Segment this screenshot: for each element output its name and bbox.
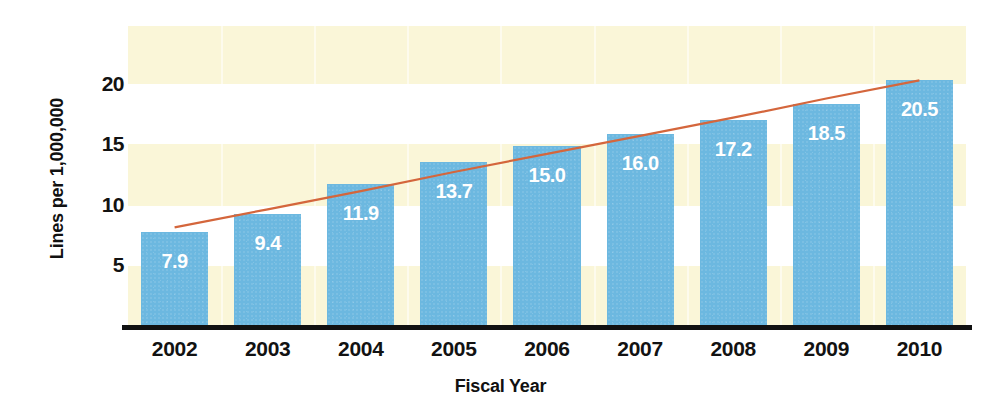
bar-value-label-2003: 9.4 [234,232,301,255]
bar-value-label-2005: 13.7 [420,180,487,203]
bar-chart: Lines per 1,000,000 5101520 7.99.411.913… [0,0,1001,418]
y-axis-tick-20: 20 [78,72,124,96]
x-axis-tick-2005: 2005 [431,337,477,361]
x-axis-tick-2008: 2008 [710,337,756,361]
plot-area: 7.99.411.913.715.016.017.218.520.5 [128,26,966,327]
y-axis-tick-10: 10 [78,193,124,217]
x-axis-tick-2007: 2007 [617,337,663,361]
bar-group: 7.99.411.913.715.016.017.218.520.5 [128,26,966,327]
bar-2003[interactable] [234,214,301,327]
y-axis-tick-15: 15 [78,132,124,156]
x-axis-title: Fiscal Year [0,376,1001,397]
y-axis-tick-5: 5 [78,253,124,277]
x-axis-tick-2009: 2009 [804,337,850,361]
x-axis-tick-2010: 2010 [897,337,943,361]
y-axis-title: Lines per 1,000,000 [47,64,68,294]
bar-value-label-2004: 11.9 [327,202,394,225]
bar-value-label-2007: 16.0 [607,152,674,175]
bar-value-label-2010: 20.5 [886,98,953,121]
x-axis-tick-2003: 2003 [245,337,291,361]
x-axis-tick-2002: 2002 [152,337,198,361]
bar-value-label-2008: 17.2 [700,138,767,161]
bar-value-label-2002: 7.9 [141,250,208,273]
x-axis-tick-2004: 2004 [338,337,384,361]
bar-value-label-2009: 18.5 [793,122,860,145]
x-axis-tick-labels: 200220032004200520062007200820092010 [128,337,966,369]
x-axis-tick-2006: 2006 [524,337,570,361]
bar-2002[interactable] [141,232,208,327]
y-axis-tick-labels: 5101520 [78,0,124,418]
x-axis-baseline [122,325,972,330]
bar-value-label-2006: 15.0 [513,164,580,187]
